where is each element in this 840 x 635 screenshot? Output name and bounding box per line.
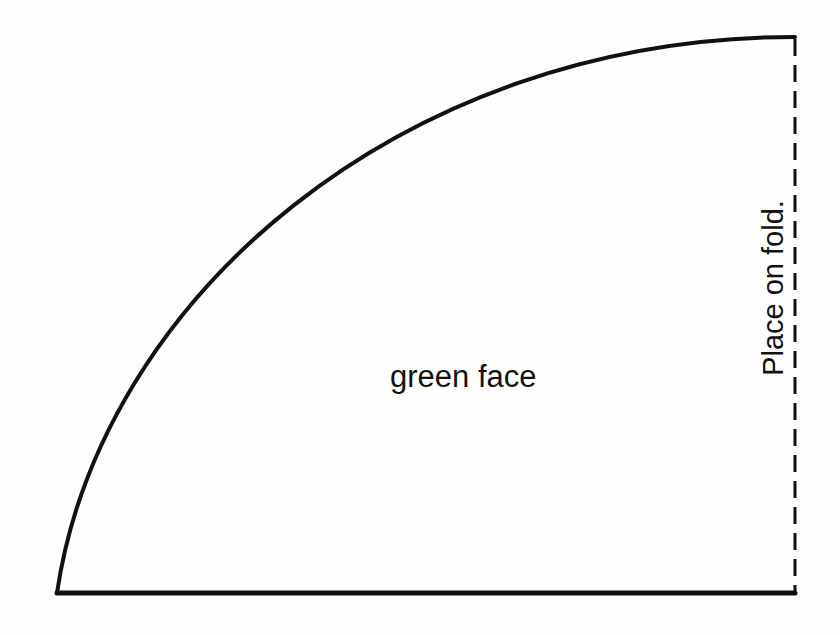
fold-instruction-label: Place on fold. [757,200,790,376]
pattern-piece-canvas: green face Place on fold. [0,0,840,635]
pattern-outline [0,0,840,635]
piece-name-label: green face [390,359,537,395]
curved-cut-edge [57,37,795,593]
